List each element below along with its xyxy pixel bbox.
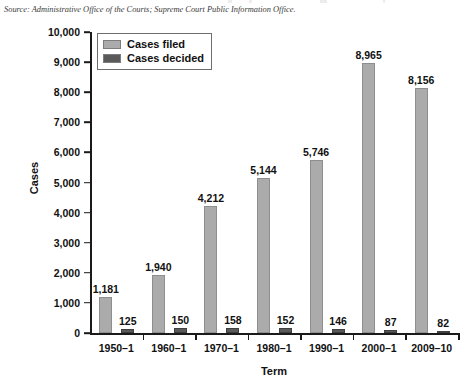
x-tick-label: 1960–1 [151, 342, 186, 354]
bar-cases-decided [279, 328, 292, 333]
legend-item-cases-decided: Cases decided [103, 51, 204, 65]
y-tick-label: 4,000 [22, 207, 80, 219]
bar-value-label-cases-filed: 8,156 [397, 74, 445, 86]
y-tick-label: 1,000 [22, 297, 80, 309]
bar-value-label-cases-filed: 1,181 [82, 283, 130, 295]
y-tick-mark [84, 182, 90, 184]
bar-value-label-cases-decided: 146 [316, 315, 360, 327]
x-tick-label: 1970–1 [204, 342, 239, 354]
y-tick-mark [84, 152, 90, 154]
bar-value-label-cases-filed: 1,940 [134, 261, 182, 273]
x-axis-title: Term [90, 365, 458, 377]
y-tick-label: 2,000 [22, 267, 80, 279]
y-tick-mark [84, 212, 90, 214]
x-tick-label: 1980–1 [256, 342, 291, 354]
bar-cases-filed [362, 63, 375, 333]
bar-value-label-cases-decided: 87 [369, 316, 413, 328]
x-tick-mark [195, 333, 197, 340]
x-tick-label: 2000–1 [362, 342, 397, 354]
bar-cases-decided [332, 329, 345, 333]
y-tick-mark [84, 61, 90, 63]
x-tick-label: 1950–1 [99, 342, 134, 354]
y-tick-mark [84, 332, 90, 334]
bar-value-label-cases-decided: 152 [264, 314, 308, 326]
y-tick-mark [84, 302, 90, 304]
y-tick-mark [84, 272, 90, 274]
bar-value-label-cases-decided: 125 [106, 315, 150, 327]
y-tick-mark [84, 91, 90, 93]
x-tick-mark [300, 333, 302, 340]
y-tick-label: 5,000 [22, 177, 80, 189]
legend-label-cases-filed: Cases filed [127, 38, 185, 50]
legend-swatch-cases-decided-icon [103, 54, 121, 63]
legend-label-cases-decided: Cases decided [127, 52, 204, 64]
y-tick-label: 7,000 [22, 116, 80, 128]
legend-swatch-cases-filed-icon [103, 40, 121, 49]
bar-cases-decided [226, 328, 239, 333]
x-tick-label: 1990–1 [309, 342, 344, 354]
bar-value-label-cases-decided: 158 [211, 314, 255, 326]
chart-page: Source: Administrative Office of the Cou… [0, 0, 464, 384]
bar-value-label-cases-decided: 82 [421, 317, 464, 329]
y-tick-label: 0 [22, 327, 80, 339]
x-tick-mark [458, 333, 460, 340]
bar-value-label-cases-filed: 4,212 [187, 192, 235, 204]
bar-chart: Cases Term 01,0002,0003,0004,0005,0006,0… [0, 22, 464, 384]
y-tick-mark [84, 31, 90, 33]
x-tick-mark [353, 333, 355, 340]
bar-value-label-cases-filed: 5,746 [292, 146, 340, 158]
y-tick-label: 9,000 [22, 56, 80, 68]
bar-cases-filed [310, 160, 323, 333]
y-tick-mark [84, 242, 90, 244]
bar-cases-decided [384, 330, 397, 333]
y-tick-label: 3,000 [22, 237, 80, 249]
x-tick-mark [405, 333, 407, 340]
x-tick-label: 2009–10 [411, 342, 452, 354]
bar-value-label-cases-filed: 8,965 [345, 49, 393, 61]
y-tick-mark [84, 122, 90, 124]
legend-item-cases-filed: Cases filed [103, 37, 204, 51]
y-tick-label: 8,000 [22, 86, 80, 98]
clipped-text-artifact [215, 0, 430, 3]
y-tick-label: 6,000 [22, 146, 80, 158]
bar-value-label-cases-filed: 5,144 [240, 164, 288, 176]
x-tick-mark [248, 333, 250, 340]
bar-value-label-cases-decided: 150 [158, 314, 202, 326]
bar-cases-filed [257, 178, 270, 333]
y-tick-label: 10,000 [22, 26, 80, 38]
x-axis-line [90, 333, 458, 335]
bar-cases-filed [415, 88, 428, 333]
bar-cases-decided [437, 331, 450, 333]
bar-cases-decided [121, 329, 134, 333]
x-tick-mark [143, 333, 145, 340]
bar-cases-decided [174, 328, 187, 333]
source-note: Source: Administrative Office of the Cou… [4, 4, 460, 15]
chart-legend: Cases filed Cases decided [97, 33, 212, 70]
